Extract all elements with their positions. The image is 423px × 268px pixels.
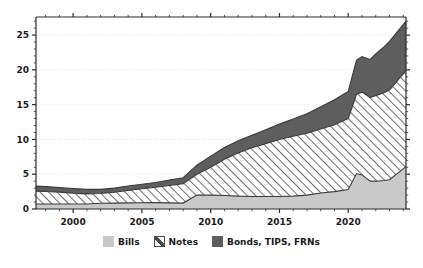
y-tick-label: 5 bbox=[23, 169, 29, 179]
stacked-area-chart: 0510152025 20002005201020152020 Bills No… bbox=[0, 0, 423, 268]
bills-swatch-icon bbox=[103, 236, 114, 247]
legend-item-notes: Notes bbox=[154, 236, 198, 247]
y-tick-label: 15 bbox=[16, 100, 29, 110]
chart-legend: Bills Notes Bonds, TIPS, FRNs bbox=[0, 236, 423, 247]
legend-item-bonds: Bonds, TIPS, FRNs bbox=[212, 236, 320, 247]
bonds-swatch-icon bbox=[212, 236, 223, 247]
y-tick-label: 20 bbox=[16, 65, 29, 75]
y-tick-label: 25 bbox=[16, 30, 29, 40]
legend-item-bills: Bills bbox=[103, 236, 139, 247]
legend-label-bills: Bills bbox=[118, 237, 139, 247]
x-tick-label: 2000 bbox=[61, 217, 86, 227]
legend-label-notes: Notes bbox=[169, 237, 198, 247]
notes-swatch-icon bbox=[154, 236, 165, 247]
x-tick-label: 2005 bbox=[129, 217, 154, 227]
x-tick-label: 2015 bbox=[267, 217, 292, 227]
x-tick-label: 2020 bbox=[336, 217, 361, 227]
y-tick-label: 0 bbox=[23, 204, 29, 214]
y-axis-tick-labels: 0510152025 bbox=[16, 30, 29, 214]
x-tick-label: 2010 bbox=[198, 217, 223, 227]
legend-label-bonds: Bonds, TIPS, FRNs bbox=[227, 237, 320, 247]
x-axis-tick-labels: 20002005201020152020 bbox=[61, 217, 361, 227]
y-tick-label: 10 bbox=[16, 135, 29, 145]
chart-canvas: 0510152025 20002005201020152020 bbox=[0, 0, 423, 268]
